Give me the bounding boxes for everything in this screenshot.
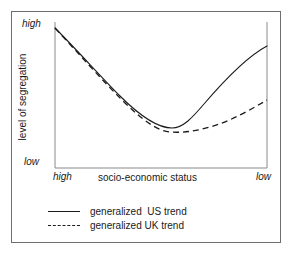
legend-label-us-trend: generalized US trend (90, 206, 187, 217)
legend-item-uk-trend: generalized UK trend (48, 218, 187, 232)
legend-item-us-trend: generalized US trend (48, 204, 187, 218)
y-axis-tick-label-low: low (24, 157, 39, 167)
figure-container: high low level of segregation high low s… (0, 0, 293, 258)
series-line-us-trend (55, 28, 267, 128)
legend-line-sample-dashed-icon (48, 225, 80, 226)
y-axis-tick-label-high: high (22, 19, 41, 29)
y-axis-title: level of segregation (18, 49, 28, 145)
chart-legend: generalized US trend generalized UK tren… (48, 204, 187, 232)
legend-label-uk-trend: generalized UK trend (90, 220, 184, 231)
series-line-uk-trend (55, 28, 267, 132)
legend-line-sample-solid-icon (48, 211, 80, 212)
x-axis-title: socio-economic status (98, 173, 197, 183)
x-axis-tick-label-low: low (256, 172, 271, 182)
x-axis-tick-label-high: high (53, 172, 72, 182)
